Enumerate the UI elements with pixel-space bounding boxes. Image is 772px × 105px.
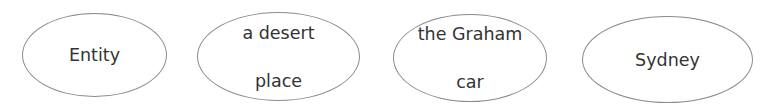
node-entity: Entity <box>22 13 167 97</box>
node-a-desert-place: a desert place <box>197 12 360 101</box>
node-label: Sydney <box>635 24 700 96</box>
node-label-line: place <box>242 69 314 93</box>
node-label-line: Sydney <box>635 48 700 72</box>
node-the-graham-car: the Graham car <box>393 14 547 102</box>
node-label-line: Entity <box>69 43 120 67</box>
node-label: the Graham car <box>418 0 523 105</box>
diagram-canvas: Entity a desert place the Graham car Syd… <box>0 0 772 105</box>
node-label: a desert place <box>242 0 314 105</box>
node-label-line: a desert <box>242 21 314 45</box>
node-label-line: car <box>418 70 523 94</box>
node-label-line: the Graham <box>418 22 523 46</box>
node-sydney: Sydney <box>582 16 753 103</box>
node-label: Entity <box>69 19 120 91</box>
